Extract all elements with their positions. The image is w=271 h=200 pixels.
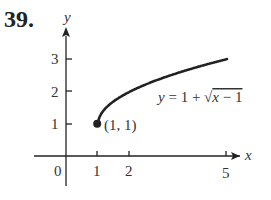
graph: y x 0 1 2 5 1 2 3 (1, 1) y = 1 + √x − 1 bbox=[0, 0, 271, 200]
y-tick-label-1: 1 bbox=[51, 116, 59, 132]
x-tick-label-1: 1 bbox=[93, 163, 101, 179]
equation-label: y = 1 + √x − 1 bbox=[156, 89, 242, 105]
origin-label: 0 bbox=[54, 163, 62, 179]
point-label: (1, 1) bbox=[104, 117, 137, 134]
y-tick-label-3: 3 bbox=[51, 51, 59, 67]
x-tick-label-2: 2 bbox=[125, 163, 133, 179]
y-axis-label: y bbox=[62, 9, 71, 25]
point-1-1 bbox=[93, 120, 101, 128]
y-axis-arrow-icon bbox=[62, 27, 70, 37]
x-tick-label-5: 5 bbox=[222, 165, 230, 181]
x-axis-label: x bbox=[244, 147, 252, 163]
y-tick-label-2: 2 bbox=[51, 84, 59, 100]
